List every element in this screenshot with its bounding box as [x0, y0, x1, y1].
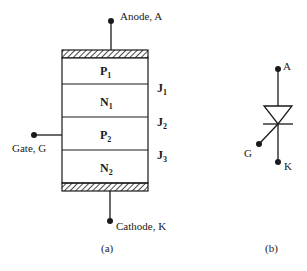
- caption-a: (a): [101, 242, 114, 255]
- cathode-dot-icon: [107, 218, 113, 224]
- gate-terminal: Gate, G: [12, 132, 62, 154]
- symbol-gate-dot-icon: [256, 141, 262, 147]
- symbol-anode-label: A: [283, 60, 291, 72]
- symbol-anode-dot-icon: [275, 66, 281, 72]
- thyristor-diagram: Anode, A P1 N1 P2 N2 J1 J2 J3 Gate, G: [0, 0, 307, 271]
- cathode-contact-hatch: [62, 183, 148, 191]
- anode-label: Anode, A: [120, 10, 162, 22]
- figure-a-structure: Anode, A P1 N1 P2 N2 J1 J2 J3 Gate, G: [12, 10, 167, 255]
- cathode-terminal: Cathode, K: [107, 191, 166, 232]
- anode-dot-icon: [108, 18, 114, 24]
- anode-contact-hatch: [62, 50, 148, 58]
- figure-b-scr-symbol: A G K (b): [244, 60, 293, 255]
- junction-j2-label: J2: [157, 115, 167, 131]
- caption-b: (b): [265, 242, 278, 255]
- cathode-label: Cathode, K: [116, 220, 166, 232]
- symbol-cathode-dot-icon: [275, 159, 281, 165]
- junction-j1-label: J1: [157, 81, 167, 97]
- symbol-gate-label: G: [244, 147, 252, 159]
- anode-terminal: Anode, A: [108, 10, 162, 50]
- symbol-cathode-label: K: [284, 160, 292, 172]
- junction-j3-label: J3: [157, 148, 167, 164]
- gate-label: Gate, G: [12, 142, 46, 154]
- gate-dot-icon: [31, 132, 37, 138]
- gate-lead-line: [259, 124, 278, 144]
- diode-triangle-icon: [264, 106, 292, 124]
